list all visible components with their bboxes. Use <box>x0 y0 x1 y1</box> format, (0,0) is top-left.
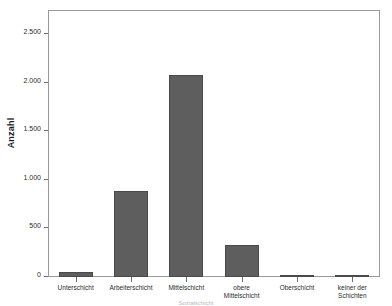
y-tick-label: 2.500 <box>0 28 41 35</box>
y-tick-label: 1.000 <box>0 174 41 181</box>
x-tick-label: Mittelschicht <box>159 284 214 292</box>
bar[interactable] <box>169 75 203 277</box>
x-tick-mark <box>131 277 132 282</box>
bar-slot <box>169 10 203 277</box>
y-tick-label: 500 <box>0 222 41 229</box>
x-tick-label: Oberschicht <box>269 284 324 292</box>
y-tick-label: 0 <box>0 271 41 278</box>
bar-slot <box>225 10 259 277</box>
x-tick-mark <box>242 277 243 282</box>
y-tick-label: 1.500 <box>0 125 41 132</box>
bars-layer <box>48 10 379 277</box>
bottom-cut-caption: Sozialschicht <box>0 300 392 306</box>
x-tick-mark <box>186 277 187 282</box>
bar-slot <box>280 10 314 277</box>
x-tick-mark <box>297 277 298 282</box>
y-tick-label: 2.000 <box>0 77 41 84</box>
x-tick-mark <box>352 277 353 282</box>
x-tick-label: keiner der Schichten <box>325 284 380 299</box>
x-tick-mark <box>76 277 77 282</box>
x-tick-label: Arbeiterschicht <box>103 284 158 292</box>
x-tick-label: obere Mittelschicht <box>214 284 269 299</box>
bar-chart: Anzahl 05001.0001.5002.0002.500 Untersch… <box>0 0 392 306</box>
bar-slot <box>59 10 93 277</box>
y-axis-title: Anzahl <box>6 103 16 163</box>
bar-slot <box>335 10 369 277</box>
bar[interactable] <box>225 245 259 277</box>
bar-slot <box>114 10 148 277</box>
bar[interactable] <box>114 191 148 277</box>
x-tick-label: Unterschicht <box>48 284 103 292</box>
